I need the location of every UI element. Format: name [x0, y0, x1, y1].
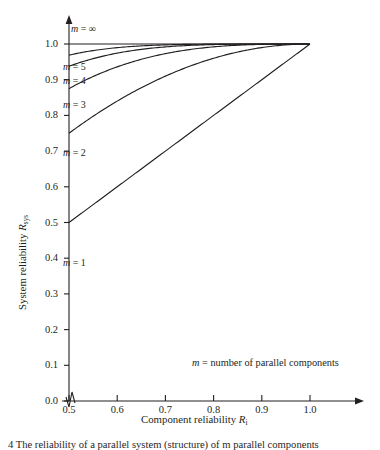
y-axis-title: System reliability Rsys	[16, 215, 28, 310]
y-axis-title-text: System reliability	[16, 231, 28, 310]
y-tick-label: 1.0	[24, 39, 58, 50]
y-tick-label: 0.7	[24, 146, 58, 157]
y-tick-label: 0.3	[24, 289, 58, 300]
y-tick-label: 0.9	[24, 75, 58, 86]
curve-label-value: = 5	[70, 61, 86, 72]
y-tick-label: 0.4	[24, 253, 58, 264]
y-tick-label: 0.6	[24, 182, 58, 193]
curve-label-value: = 1	[70, 257, 86, 268]
y-axis	[66, 15, 73, 401]
curve-label-3: m = 3	[63, 100, 86, 110]
curve-2	[69, 44, 310, 133]
curve-1	[69, 44, 310, 223]
x-tick-marks	[69, 395, 310, 401]
x-axis-arrow-icon	[355, 398, 364, 405]
curve-label-4: m = 4	[63, 76, 86, 86]
y-axis-subscript: sys	[21, 215, 30, 224]
curve-label-value: = 4	[70, 75, 86, 86]
y-tick-marks	[64, 44, 69, 401]
curve-label-value: = 3	[70, 99, 86, 110]
data-curves	[69, 44, 310, 223]
x-tick-label: 0.9	[245, 405, 279, 416]
curve-label-1: m = 1	[63, 258, 86, 268]
y-axis-symbol: R	[16, 224, 28, 231]
x-tick-label: 1.0	[293, 405, 327, 416]
curve-4	[69, 44, 310, 66]
x-axis-title-text: Component reliability	[141, 413, 239, 425]
curve-label-5: m = 5	[63, 62, 86, 72]
figure-caption: 4 The reliability of a parallel system (…	[8, 439, 380, 450]
reliability-chart: 0.00.10.20.30.40.50.60.70.80.91.0 0.50.6…	[0, 0, 380, 450]
x-tick-label: 0.5	[52, 405, 86, 416]
y-tick-label: 0.8	[24, 110, 58, 121]
y-tick-label: 0.1	[24, 360, 58, 371]
x-axis-title: Component reliability Ri	[141, 414, 247, 425]
y-tick-label: 0.2	[24, 325, 58, 336]
curve-label-value: = ∞	[78, 23, 96, 34]
chart-annotation: m = number of parallel components	[192, 358, 339, 368]
curve-label-2: m = 2	[63, 148, 86, 158]
x-tick-label: 0.6	[100, 405, 134, 416]
curve-label-∞: m = ∞	[71, 24, 96, 34]
curve-label-value: = 2	[70, 147, 86, 158]
annotation-text: = number of parallel components	[199, 357, 338, 368]
